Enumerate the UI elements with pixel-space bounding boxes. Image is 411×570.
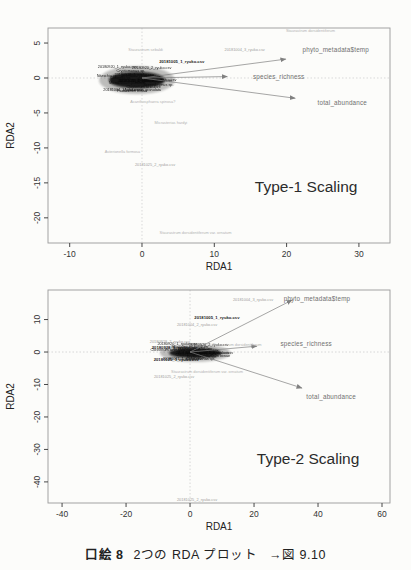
caption-title: 2つの RDA プロット	[134, 548, 258, 562]
y-tick-label: -5	[32, 109, 42, 117]
biplot-arrow-label: total_abundance	[317, 99, 367, 107]
y-axis: 100-10-20-30-40RDA2	[5, 315, 48, 488]
y-tick-label: -30	[32, 443, 42, 456]
y-tick-label: -10	[32, 378, 42, 391]
cluster-overlapped-label: Cryptomonas sp.	[117, 69, 146, 73]
site-label: 20181004_3_ryuko.csv	[225, 47, 265, 52]
y-tick-label: 0	[32, 75, 42, 80]
cluster-overlapped-label: Micractinium pusillum	[109, 81, 145, 85]
site-label: 20180928_2_ryuko.csv	[150, 339, 190, 344]
x-tick-label: 0	[140, 249, 145, 259]
site-label: 20181025_2_ryuko.csv	[154, 374, 194, 379]
caption-ref: →図 9.10	[269, 548, 326, 562]
x-tick-label: -20	[120, 509, 133, 519]
rda-plot-type1-canvas: -100102030RDA150-5-10-15-20RDA220180920_…	[0, 0, 411, 285]
y-tick-label: -20	[32, 211, 42, 224]
y-tick-label: 0	[32, 349, 42, 354]
cluster-overlapped-label: Pediastrum biwae	[117, 89, 147, 93]
y-tick-label: 10	[32, 315, 42, 325]
caption-label: 口絵 8	[85, 548, 123, 562]
site-label: 20181025_1_ryuko.csv	[154, 357, 200, 362]
x-axis-title: RDA1	[206, 521, 233, 532]
rda-plot-type2: -40-200204060RDA1100-10-20-30-40RDA22018…	[0, 285, 411, 548]
site-label: 20181025_2_ryuko.csv	[177, 497, 217, 502]
biplot-arrow-label: species_richness	[253, 73, 305, 81]
x-tick-label: 20	[249, 509, 259, 519]
biplot-arrows: phyto_metadata$tempspecies_richnesstotal…	[142, 46, 369, 107]
y-tick-label: 5	[32, 40, 42, 45]
x-tick-label: -40	[56, 509, 69, 519]
point-labels: 20181004_3_ryuko.csv20181005_1_ryuko.csv…	[150, 297, 273, 502]
plot-box	[48, 28, 390, 243]
cluster-overlapped-label: Pediastrum biwae	[200, 354, 230, 358]
cluster-overlapped-label: Scenedesmus sp.	[143, 83, 173, 87]
species-label: Micrasterias hardyi	[155, 120, 188, 125]
y-tick-label: -15	[32, 176, 42, 189]
x-axis-title: RDA1	[206, 261, 233, 272]
species-label: Staurastrum dorsidentiferum var. ornatum	[160, 230, 232, 235]
y-tick-label: -10	[32, 142, 42, 155]
scaling-title: Type-2 Scaling	[257, 450, 360, 467]
x-tick-label: 0	[188, 509, 193, 519]
species-label: Staurastrum sebaldi	[128, 47, 163, 52]
x-tick-label: 20	[282, 249, 292, 259]
site-label: 20181025_2_ryuko.csv	[135, 162, 175, 167]
scaling-title: Type-1 Scaling	[255, 178, 358, 195]
species-label: Staurastrum dorsidentiferum	[286, 28, 335, 33]
biplot-arrow-label: total_abundance	[306, 393, 356, 401]
y-tick-label: -40	[32, 475, 42, 488]
biplot-arrow-label: phyto_metadata$temp	[284, 295, 351, 303]
y-tick-label: -20	[32, 411, 42, 424]
x-tick-label: 40	[313, 509, 323, 519]
rda-plot-type1: -100102030RDA150-5-10-15-20RDA220180920_…	[0, 0, 411, 289]
species-label: Acanthosphaera spinosa?	[130, 99, 176, 104]
rda-plot-type2-canvas: -40-200204060RDA1100-10-20-30-40RDA22018…	[0, 285, 411, 544]
y-axis: 50-5-10-15-20RDA2	[5, 40, 48, 224]
y-axis-title: RDA2	[5, 122, 16, 149]
cluster-overlapped-label: Chlorella sp.	[110, 76, 131, 80]
y-axis-title: RDA2	[5, 383, 16, 410]
x-tick-label: 60	[377, 509, 387, 519]
x-tick-label: 10	[210, 249, 220, 259]
figure-caption: 口絵 82つの RDA プロット→図 9.10	[0, 544, 411, 563]
site-label: 20181005_1_ryuko.csv	[159, 59, 205, 64]
biplot-arrow-label: species_richness	[280, 340, 332, 348]
x-tick-label: 30	[354, 249, 364, 259]
x-axis: -40-200204060RDA1	[56, 503, 387, 532]
point-labels: Staurastrum dorsidentiferum20181004_3_ry…	[105, 28, 335, 234]
site-label: 20181005_1_ryuko.csv	[194, 315, 240, 320]
cluster-blob: 20180920_1_ryuko.csv20180920_2_ryuko.csv…	[97, 65, 177, 94]
biplot-arrow-label: phyto_metadata$temp	[303, 46, 370, 54]
site-label: 20181004_2_ryuko.csv	[177, 322, 217, 327]
site-label: 20181004_3_ryuko.csv	[233, 297, 273, 302]
species-label: Staurastrum dorsidentiferum	[213, 342, 262, 347]
x-axis: -100102030RDA1	[64, 243, 364, 272]
plate-page: -100102030RDA150-5-10-15-20RDA220180920_…	[0, 0, 411, 570]
site-label: 20180928_1_ryuko.csv	[152, 345, 198, 350]
x-tick-label: -10	[64, 249, 77, 259]
species-label: Asterionella formosa	[105, 149, 141, 154]
